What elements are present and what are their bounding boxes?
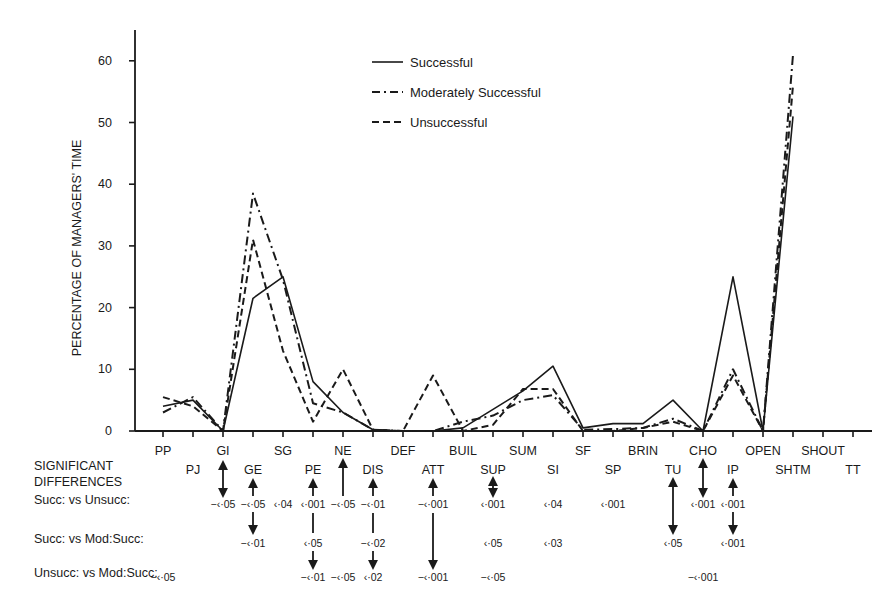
series-line-moderately-successful xyxy=(163,55,793,431)
category-label-att: ATT xyxy=(422,463,445,477)
category-label-brin: BRIN xyxy=(628,444,658,458)
category-label-sup: SUP xyxy=(480,463,506,477)
y-tick-label: 60 xyxy=(98,54,112,68)
significance-value: ‹·04 xyxy=(544,498,563,510)
significance-values: −‹·05−‹·05‹·04‹·001−‹·05−‹·01−‹·001‹·001… xyxy=(151,498,746,583)
category-label-shtm: SHTM xyxy=(775,463,810,477)
category-label-pj: PJ xyxy=(186,463,201,477)
significance-value: ‹·02 xyxy=(364,571,383,583)
y-tick-label: 20 xyxy=(98,301,112,315)
arrowhead-icon xyxy=(340,460,347,467)
arrowhead-icon xyxy=(370,480,377,487)
row-label-succ-vs-unsucc: Succ: vs Unsucc: xyxy=(34,493,130,507)
line-chart: 0102030405060 PERCENTAGE OF MANAGERS' TI… xyxy=(0,0,883,607)
significance-value: −‹·05 xyxy=(331,498,356,510)
significance-value: ‹·001 xyxy=(691,498,716,510)
category-label-shout: SHOUT xyxy=(801,444,845,458)
row-label-unsucc-vs-modsucc: Unsucc: vs Mod:Succ: xyxy=(34,566,158,580)
y-tick-label: 50 xyxy=(98,116,112,130)
legend-label: Moderately Successful xyxy=(410,85,541,100)
significance-value: −‹·05 xyxy=(241,498,266,510)
arrowhead-icon xyxy=(700,460,707,467)
category-label-cho: CHO xyxy=(689,444,717,458)
y-ticks: 0102030405060 xyxy=(98,54,135,438)
category-label-sf: SF xyxy=(575,444,591,458)
category-label-dis: DIS xyxy=(363,463,384,477)
arrowhead-icon xyxy=(220,489,227,496)
legend-label: Successful xyxy=(410,55,473,70)
series-lines xyxy=(163,55,793,431)
significance-value: −‹·02 xyxy=(361,537,386,549)
category-labels: PPPJGIGESGPENEDISDEFATTBUILSUPSUMSISFSPB… xyxy=(155,444,861,477)
category-label-open: OPEN xyxy=(745,444,780,458)
y-tick-label: 10 xyxy=(98,362,112,376)
arrowhead-icon xyxy=(490,478,497,485)
category-label-ip: IP xyxy=(727,463,739,477)
arrowhead-icon xyxy=(370,561,377,568)
y-axis-label: PERCENTAGE OF MANAGERS' TIME xyxy=(70,140,84,357)
significance-value: −‹·001 xyxy=(418,498,449,510)
significance-value: −‹·05 xyxy=(211,498,236,510)
series-line-successful xyxy=(163,116,793,431)
arrowhead-icon xyxy=(250,480,257,487)
significance-value: ‹·001 xyxy=(721,498,746,510)
arrowhead-icon xyxy=(670,526,677,533)
significance-value: ‹·03 xyxy=(544,537,563,549)
arrowhead-icon xyxy=(730,480,737,487)
significance-value: ‹·001 xyxy=(601,498,626,510)
significance-value: −‹·01 xyxy=(241,537,266,549)
significance-value: −‹·01 xyxy=(301,571,326,583)
category-label-def: DEF xyxy=(391,444,416,458)
significance-value: −‹·01 xyxy=(361,498,386,510)
arrowhead-icon xyxy=(490,489,497,496)
significance-value: ‹·001 xyxy=(301,498,326,510)
arrowhead-icon xyxy=(670,479,677,486)
y-tick-label: 0 xyxy=(105,424,112,438)
row-label-succ-vs-modsucc: Succ: vs Mod:Succ: xyxy=(34,532,144,546)
category-label-pp: PP xyxy=(155,444,172,458)
arrowhead-icon xyxy=(700,489,707,496)
sigdiff-heading-1: SIGNIFICANT xyxy=(34,459,114,473)
arrowhead-icon xyxy=(310,561,317,568)
arrowhead-icon xyxy=(430,480,437,487)
legend-item-successful: Successful xyxy=(372,55,473,70)
significance-value: −‹·001 xyxy=(688,571,719,583)
arrowhead-icon xyxy=(730,526,737,533)
significance-value: −‹·05 xyxy=(481,571,506,583)
legend: Successful Moderately Successful Unsucce… xyxy=(372,55,541,130)
legend-item-unsuccessful: Unsuccessful xyxy=(372,115,487,130)
category-label-sg: SG xyxy=(274,444,292,458)
legend-label: Unsuccessful xyxy=(410,115,487,130)
category-label-pe: PE xyxy=(305,463,322,477)
significance-value: ‹·04 xyxy=(274,498,293,510)
significance-value: ‹·001 xyxy=(481,498,506,510)
arrowhead-icon xyxy=(250,526,257,533)
category-label-tt: TT xyxy=(845,463,861,477)
category-label-ne: NE xyxy=(334,444,351,458)
significance-value: ‹·05 xyxy=(484,537,503,549)
legend-item-moderately-successful: Moderately Successful xyxy=(372,85,541,100)
significance-value: −‹·001 xyxy=(418,571,449,583)
category-label-buil: BUIL xyxy=(449,444,477,458)
significance-value: ‹·05 xyxy=(304,537,323,549)
category-label-si: SI xyxy=(547,463,559,477)
significance-value: −‹·05 xyxy=(151,571,176,583)
arrowhead-icon xyxy=(220,462,227,469)
significance-value: ‹·001 xyxy=(721,537,746,549)
significance-value: −‹·05 xyxy=(331,571,356,583)
category-label-ge: GE xyxy=(244,463,262,477)
arrowhead-icon xyxy=(430,561,437,568)
arrowhead-icon xyxy=(310,480,317,487)
significance-value: ‹·05 xyxy=(664,537,683,549)
sigdiff-heading-2: DIFFERENCES xyxy=(34,475,122,489)
significance-arrows xyxy=(220,460,737,568)
category-label-tu: TU xyxy=(665,463,682,477)
y-tick-label: 30 xyxy=(98,239,112,253)
series-line-unsuccessful xyxy=(163,86,793,432)
category-label-sp: SP xyxy=(605,463,622,477)
y-tick-label: 40 xyxy=(98,177,112,191)
category-label-sum: SUM xyxy=(509,444,537,458)
category-label-gi: GI xyxy=(216,444,229,458)
significant-differences: SIGNIFICANT DIFFERENCES Succ: vs Unsucc:… xyxy=(34,459,745,583)
